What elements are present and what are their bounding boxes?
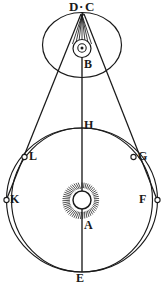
sun-disc	[73, 191, 91, 209]
label-h: H	[84, 119, 93, 131]
point-marker-k	[4, 197, 9, 202]
sun-symbol	[62, 183, 99, 220]
tangent-line-d-l-k	[6, 14, 82, 202]
label-g: G	[138, 150, 147, 162]
b-center-dot	[81, 47, 84, 50]
label-dc-separator: ·	[79, 0, 83, 13]
diagram-canvas: D · C B H L G K F A E	[0, 0, 165, 292]
point-marker-f	[155, 197, 160, 202]
label-b: B	[84, 58, 92, 70]
astronomical-figure	[0, 0, 165, 292]
label-d: D	[69, 0, 78, 13]
point-marker-l	[22, 154, 27, 159]
label-e: E	[76, 272, 84, 284]
label-l: L	[29, 150, 37, 162]
label-k: K	[10, 193, 19, 205]
label-a: A	[84, 219, 93, 231]
point-marker-g	[131, 154, 136, 159]
label-c: C	[85, 0, 94, 13]
label-f: F	[139, 193, 146, 205]
